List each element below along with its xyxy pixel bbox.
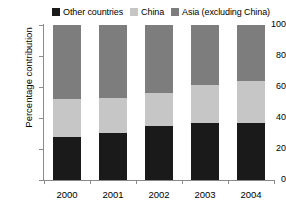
x-tick-label: 2000 [44, 189, 90, 200]
legend-label-other-countries: Other countries [63, 7, 123, 17]
x-tick-mark [182, 180, 183, 184]
bar-segment [53, 99, 81, 136]
bar-2002 [145, 25, 173, 180]
bar-segment [99, 133, 127, 180]
x-tick-label: 2004 [228, 189, 274, 200]
bar-segment [53, 25, 81, 99]
chart-legend: Other countries China Asia (excluding Ch… [43, 4, 279, 19]
x-tick-mark [136, 180, 137, 184]
bar-segment [53, 137, 81, 180]
bar-segment [191, 25, 219, 85]
legend-label-china: China [141, 7, 164, 17]
bar-segment [99, 25, 127, 98]
legend-label-asia-excluding-china: Asia (excluding China) [182, 7, 270, 17]
x-tick-mark [274, 180, 275, 184]
x-tick-mark [228, 180, 229, 184]
legend-swatch-asia-excluding-china [171, 8, 179, 16]
bar-segment [99, 98, 127, 134]
plot-area [44, 25, 274, 180]
bar-2001 [99, 25, 127, 180]
x-axis-line [43, 180, 275, 181]
bar-segment [237, 25, 265, 81]
bar-2004 [237, 25, 265, 180]
x-tick-label: 2003 [182, 189, 228, 200]
bar-segment [191, 123, 219, 180]
bar-segment [145, 25, 173, 93]
bar-2000 [53, 25, 81, 180]
y-axis-title: Percentage contribution [23, 0, 34, 158]
legend-swatch-china [130, 8, 138, 16]
bar-segment [191, 85, 219, 122]
x-tick-label: 2001 [90, 189, 136, 200]
legend-swatch-other-countries [52, 8, 60, 16]
legend-item-china: China [130, 7, 164, 17]
bar-segment [145, 126, 173, 180]
bar-2003 [191, 25, 219, 180]
bar-segment [237, 123, 265, 180]
bar-segment [145, 93, 173, 126]
x-tick-mark [90, 180, 91, 184]
x-tick-mark [44, 180, 45, 184]
stacked-bar-chart: Other countries China Asia (excluding Ch… [0, 0, 286, 211]
bar-segment [237, 81, 265, 123]
legend-item-other-countries: Other countries [52, 7, 123, 17]
x-tick-label: 2002 [136, 189, 182, 200]
legend-item-asia-excluding-china: Asia (excluding China) [171, 7, 270, 17]
